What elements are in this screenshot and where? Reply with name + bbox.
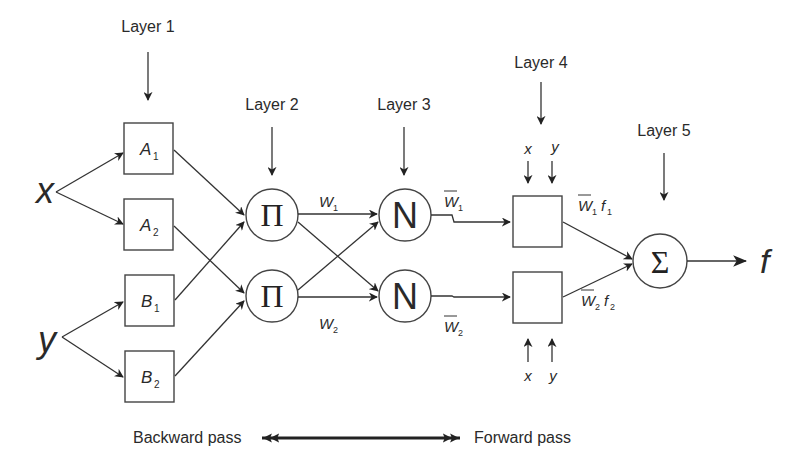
layer-5-header: Layer 5 xyxy=(637,122,690,200)
rule-output-1-label: W 1 f 1 xyxy=(578,195,612,217)
node-a2-label: A xyxy=(139,216,151,235)
product-icon: Π xyxy=(260,197,283,233)
layer-1-label: Layer 1 xyxy=(121,18,174,35)
node-b2: B 2 xyxy=(125,351,174,402)
rule2-input-y: y xyxy=(548,367,558,384)
edge-a2-p2 xyxy=(174,226,244,293)
node-a2: A 2 xyxy=(124,199,173,250)
input-y-label: y xyxy=(35,319,58,360)
forward-pass-label: Forward pass xyxy=(474,429,571,446)
w2-sub: 2 xyxy=(333,325,338,335)
edge-n1-r1 xyxy=(431,215,510,222)
product-icon: Π xyxy=(260,278,283,314)
edge-y-b1 xyxy=(62,302,123,337)
normalized-weight-2-label: W 2 xyxy=(444,316,463,338)
layer-1-header: Layer 1 xyxy=(121,18,174,100)
layer-3-header: Layer 3 xyxy=(377,96,430,175)
node-b1-label: B xyxy=(141,292,152,311)
node-b2-label: B xyxy=(141,368,152,387)
rule-out1-wsub: 1 xyxy=(592,207,597,217)
w1-sub: 1 xyxy=(333,203,338,213)
node-n-1: N xyxy=(379,189,431,241)
edge-n2-r2 xyxy=(431,296,510,297)
rule1-input-x: x xyxy=(523,140,532,157)
node-b1-sub: 1 xyxy=(154,303,160,314)
rule2-input-x: x xyxy=(523,367,532,384)
node-rule-2 xyxy=(513,272,562,323)
layer-2-header: Layer 2 xyxy=(245,96,298,175)
node-b1: B 1 xyxy=(125,275,174,326)
rule-out2-fsub: 2 xyxy=(610,302,615,312)
sum-icon: Σ xyxy=(651,244,670,280)
rule-output-2-label: W 2 f 2 xyxy=(581,290,615,312)
edge-x-a2 xyxy=(56,192,123,224)
edge-a1-p1 xyxy=(174,150,244,215)
weight-w1-label: W 1 xyxy=(319,193,338,213)
edge-r1-sum xyxy=(563,222,632,259)
rule-out2-wsub: 2 xyxy=(595,302,600,312)
node-pi-1: Π xyxy=(246,189,298,241)
edge-r2-sum xyxy=(563,264,632,297)
node-b2-sub: 2 xyxy=(154,379,160,390)
node-sum: Σ xyxy=(633,234,687,288)
rule-out1-fsub: 1 xyxy=(607,207,612,217)
layer-5-label: Layer 5 xyxy=(637,122,690,139)
edge-b1-p1 xyxy=(175,222,244,300)
node-a1-sub: 1 xyxy=(153,151,159,162)
layer-4-header: Layer 4 xyxy=(514,54,567,124)
normalized-weight-1-label: W 1 xyxy=(444,191,463,213)
normalize-icon: N xyxy=(392,276,418,317)
node-pi-2: Π xyxy=(246,270,298,322)
node-rule-1 xyxy=(513,196,562,247)
edge-b2-p2 xyxy=(175,301,244,376)
weight-w2-label: W 2 xyxy=(319,315,338,335)
input-x-label: x xyxy=(34,170,56,211)
edge-y-b2 xyxy=(62,337,123,377)
node-n-2: N xyxy=(379,270,431,322)
layer-2-label: Layer 2 xyxy=(245,96,298,113)
node-a2-sub: 2 xyxy=(153,227,159,238)
backward-pass-label: Backward pass xyxy=(133,429,242,446)
wbar1-sub: 1 xyxy=(458,203,463,213)
layer-4-label: Layer 4 xyxy=(514,54,567,71)
node-a1-label: A xyxy=(139,140,151,159)
edge-x-a1 xyxy=(56,153,123,192)
layer-3-label: Layer 3 xyxy=(377,96,430,113)
node-a1: A 1 xyxy=(124,123,173,174)
rule1-input-y: y xyxy=(550,138,560,155)
output-f-label: f xyxy=(760,242,773,280)
anfis-diagram: Layer 1 Layer 2 Layer 3 Layer 4 Layer 5 … xyxy=(0,0,808,473)
wbar2-sub: 2 xyxy=(458,328,463,338)
normalize-icon: N xyxy=(392,195,418,236)
